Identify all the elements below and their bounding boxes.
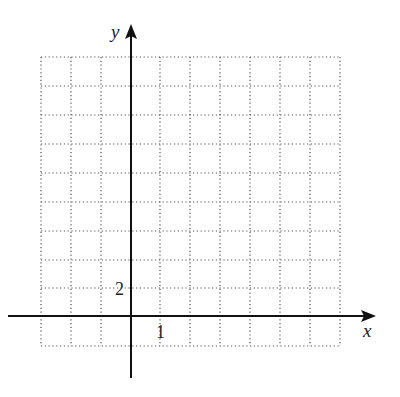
y-axis	[125, 24, 137, 378]
grid	[41, 57, 340, 346]
coordinate-plane: y x 2 1	[0, 0, 400, 397]
y-tick-label: 2	[115, 279, 124, 299]
x-axis-label: x	[362, 320, 372, 341]
x-axis	[8, 310, 376, 322]
x-tick-label: 1	[156, 322, 165, 342]
y-axis-label: y	[109, 21, 120, 42]
